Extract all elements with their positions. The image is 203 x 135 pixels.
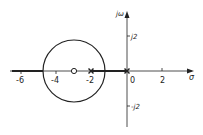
tick-label-x--4: -4 [51, 76, 59, 85]
root-locus-diagram: -6 -4 -2 0 2 σ jω j2 -j2 [0, 0, 203, 135]
tick-label-x-2: 2 [160, 76, 165, 85]
tick-label-y-j2: j2 [130, 33, 138, 41]
tick-label-x--6: -6 [16, 76, 24, 85]
jw-axis-arrow [125, 11, 130, 18]
tick-label-x-0: 0 [130, 76, 135, 85]
x-axis-label: σ [189, 73, 195, 82]
y-axis-label: jω [115, 10, 124, 18]
tick-label-x--2: -2 [86, 76, 94, 85]
tick-label-y--j2: -j2 [131, 103, 140, 111]
zero-marker [71, 68, 76, 73]
